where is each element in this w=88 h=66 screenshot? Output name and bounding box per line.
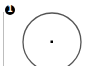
circle-outline: [23, 13, 81, 66]
circle-diagram: [0, 0, 88, 66]
center-point: [51, 41, 54, 44]
